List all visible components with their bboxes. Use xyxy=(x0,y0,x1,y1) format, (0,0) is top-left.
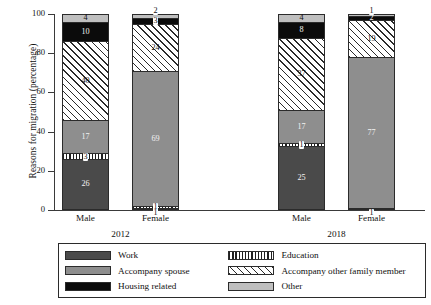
segment-housing-related[interactable]: 10 xyxy=(63,22,108,42)
legend-item-accompany-other-family[interactable]: Accompany other family member xyxy=(228,264,419,278)
segment-value: 2 xyxy=(153,7,158,15)
segment-value: 24 xyxy=(151,44,159,52)
legend-label: Education xyxy=(281,250,318,260)
segment-value: 4 xyxy=(299,14,303,22)
x-year-label-2012: 2012 xyxy=(61,229,181,239)
housing-related-swatch-icon xyxy=(65,282,111,291)
segment-value: 1 xyxy=(299,141,304,149)
education-swatch-icon xyxy=(228,251,274,260)
segment-housing-related[interactable]: 8 xyxy=(279,22,324,38)
y-tick-label-0: 0 xyxy=(15,204,45,214)
y-tick-60: 60 xyxy=(48,92,54,93)
accompany-spouse-swatch-icon xyxy=(65,266,111,275)
bar-male-2018[interactable]: 4 8 37 17 1 25 xyxy=(278,14,325,210)
segment-accompany-spouse[interactable]: 17 xyxy=(279,110,324,143)
y-tick-label-20: 20 xyxy=(15,165,45,175)
segment-value: 19 xyxy=(367,35,375,43)
segment-work[interactable]: 25 xyxy=(279,146,324,210)
segment-value: 77 xyxy=(367,129,375,137)
segment-value: 26 xyxy=(81,180,89,188)
segment-value: 25 xyxy=(297,174,305,182)
x-year-label-2018: 2018 xyxy=(277,229,397,239)
segment-accompany-other-family[interactable]: 40 xyxy=(63,41,108,119)
segment-value: 17 xyxy=(81,133,89,141)
segment-value: 1 xyxy=(153,209,158,217)
bar-male-2012[interactable]: 4 10 40 17 3 26 xyxy=(62,14,109,210)
legend-item-accompany-spouse[interactable]: Accompany spouse xyxy=(65,264,228,278)
y-tick-label-100: 100 xyxy=(15,8,45,18)
stacked-bar-chart-figure: Reasons for migration (percentage) 100 8… xyxy=(0,0,431,305)
y-tick-100: 100 xyxy=(48,14,54,15)
x-label-male-2018: Male xyxy=(272,213,332,223)
segment-value: 8 xyxy=(299,26,303,34)
legend-item-housing-related[interactable]: Housing related xyxy=(65,279,228,293)
segment-work[interactable]: 26 xyxy=(63,159,108,210)
bar-female-2018[interactable]: 1 2 19 77 1 xyxy=(348,14,395,210)
legend-column-right: Education Accompany other family member … xyxy=(228,248,419,293)
legend-label: Accompany other family member xyxy=(281,266,405,276)
y-tick-0: 0 xyxy=(48,210,54,211)
other-swatch-icon xyxy=(228,282,274,291)
y-tick-label-60: 60 xyxy=(15,86,45,96)
legend-item-education[interactable]: Education xyxy=(228,248,419,262)
legend-label: Housing related xyxy=(118,281,176,291)
segment-other[interactable]: 4 xyxy=(279,14,324,22)
y-tick-label-40: 40 xyxy=(15,126,45,136)
segment-value: 3 xyxy=(83,153,88,161)
segment-value: 40 xyxy=(81,77,89,85)
segment-work[interactable]: 1 xyxy=(133,208,178,210)
x-label-male-2012: Male xyxy=(56,213,116,223)
legend-label: Work xyxy=(118,250,138,260)
y-tick-label-80: 80 xyxy=(15,47,45,57)
segment-work[interactable]: 1 xyxy=(349,208,394,210)
accompany-other-family-swatch-icon xyxy=(228,266,274,275)
segment-value: 1 xyxy=(369,209,374,217)
legend-label: Accompany spouse xyxy=(118,266,190,276)
segment-accompany-spouse[interactable]: 17 xyxy=(63,120,108,153)
segment-value: 2 xyxy=(369,14,373,22)
segment-value: 4 xyxy=(83,14,87,22)
segment-other[interactable]: 4 xyxy=(63,14,108,22)
segment-accompany-spouse[interactable]: 69 xyxy=(133,71,178,206)
segment-value: 10 xyxy=(81,28,89,36)
segment-accompany-other-family[interactable]: 37 xyxy=(279,38,324,111)
plot-area: 100 80 60 40 20 0 4 10 40 xyxy=(56,14,425,210)
legend-label: Other xyxy=(281,281,302,291)
segment-value: 69 xyxy=(151,135,159,143)
y-tick-80: 80 xyxy=(48,53,54,54)
legend-item-work[interactable]: Work xyxy=(65,248,228,262)
segment-accompany-other-family[interactable]: 19 xyxy=(349,20,394,57)
segment-value: 3 xyxy=(153,17,158,25)
y-tick-40: 40 xyxy=(48,132,54,133)
segment-accompany-spouse[interactable]: 77 xyxy=(349,57,394,208)
bar-female-2012[interactable]: 2 3 24 69 1 1 xyxy=(132,14,179,210)
chart-legend: Work Accompany spouse Housing related Ed… xyxy=(58,243,426,298)
work-swatch-icon xyxy=(65,251,111,260)
segment-value: 17 xyxy=(297,123,305,131)
y-tick-20: 20 xyxy=(48,171,54,172)
y-axis-title: Reasons for migration (percentage) xyxy=(28,6,38,216)
legend-column-left: Work Accompany spouse Housing related xyxy=(65,248,228,293)
segment-value: 37 xyxy=(297,70,305,78)
y-axis-line xyxy=(54,14,55,210)
legend-item-other[interactable]: Other xyxy=(228,279,419,293)
segment-accompany-other-family[interactable]: 24 xyxy=(133,24,178,71)
